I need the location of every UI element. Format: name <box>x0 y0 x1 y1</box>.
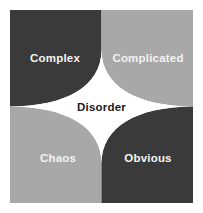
quadrant-label-complex: Complex <box>30 52 80 64</box>
cynefin-diagram: Complex Complicated Chaos Obvious Disord… <box>0 0 203 213</box>
quadrant-label-chaos: Chaos <box>40 152 76 164</box>
quadrant-label-obvious: Obvious <box>124 152 171 164</box>
center-label-disorder: Disorder <box>77 101 126 113</box>
cynefin-diagram-canvas: Complex Complicated Chaos Obvious Disord… <box>0 0 203 213</box>
quadrant-label-complicated: Complicated <box>112 52 183 64</box>
